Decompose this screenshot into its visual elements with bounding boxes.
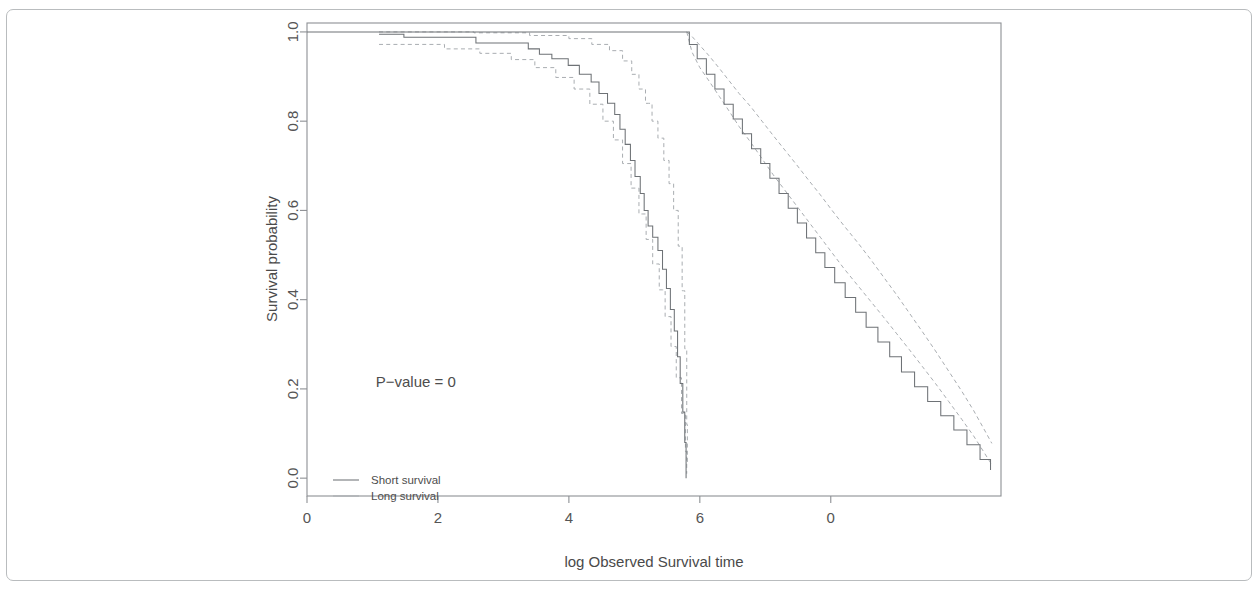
plot-frame	[307, 23, 1001, 496]
survival-plot: 0.00.20.40.60.81.0 02460 Survival probab…	[7, 10, 1253, 582]
y-tick-label: 1.0	[284, 21, 301, 42]
y-tick-label: 0.6	[284, 200, 301, 221]
curve-long-survival	[307, 32, 991, 470]
x-tick-label: 0	[303, 509, 311, 526]
ci-upper-long-survival	[687, 32, 992, 443]
x-tick-label: 4	[565, 509, 573, 526]
figure-card: 0.00.20.40.60.81.0 02460 Survival probab…	[6, 9, 1252, 581]
survival-curves	[307, 32, 992, 478]
legend-label-long-survival: Long survival	[371, 490, 439, 502]
x-tick-label: 6	[696, 509, 704, 526]
x-axis-title: log Observed Survival time	[564, 553, 743, 570]
p-value-annotation: P−value = 0	[376, 373, 456, 390]
curve-short-survival	[379, 34, 686, 478]
y-axis-ticks: 0.00.20.40.60.81.0	[284, 21, 307, 488]
ci-lower-long-survival	[687, 32, 992, 465]
legend-label-short-survival: Short survival	[371, 474, 441, 486]
y-tick-label: 0.4	[284, 289, 301, 310]
x-tick-label: 2	[434, 509, 442, 526]
ci-upper-short-survival	[379, 32, 687, 465]
y-tick-label: 0.8	[284, 111, 301, 132]
ci-lower-short-survival	[379, 44, 687, 473]
y-tick-label: 0.2	[284, 378, 301, 399]
x-tick-label: 0	[827, 509, 835, 526]
y-tick-label: 0.0	[284, 468, 301, 489]
y-axis-title: Survival probability	[263, 196, 280, 322]
legend: Short survival Long survival	[333, 474, 441, 502]
